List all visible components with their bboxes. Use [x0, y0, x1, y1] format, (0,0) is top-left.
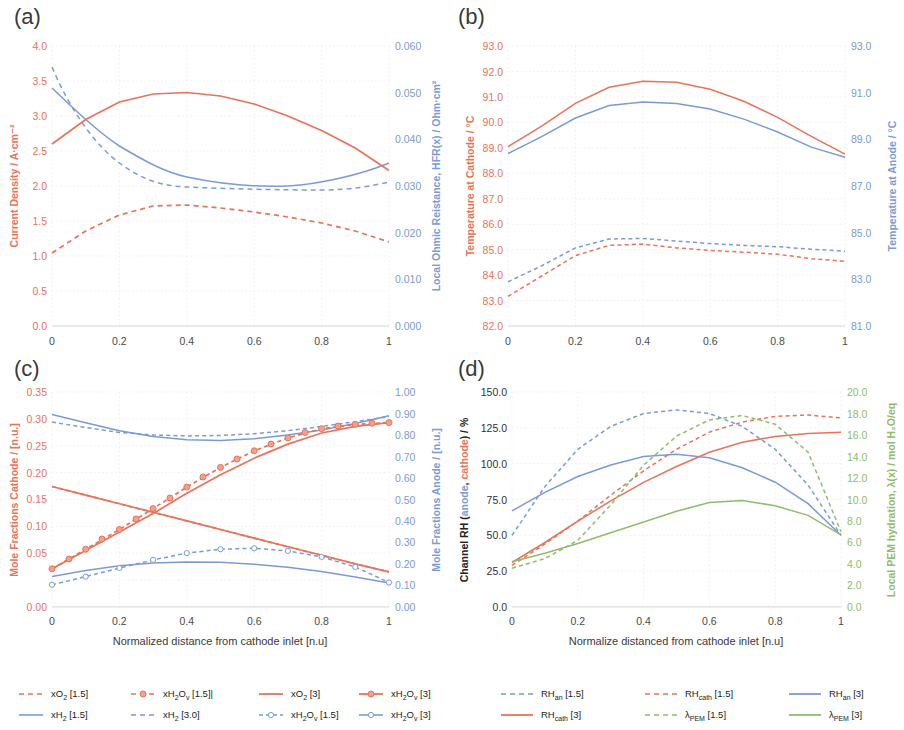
legend-item-xh2-3[interactable]: xH2 [3.0] [130, 709, 258, 722]
legend-item-xh2ov-1p5-cath[interactable]: xH2Ov [1.5]| [130, 688, 258, 701]
svg-text:2.5: 2.5 [32, 145, 47, 157]
svg-text:0.10: 0.10 [27, 520, 48, 532]
svg-text:0.2: 0.2 [112, 335, 127, 347]
panel-a-right-ticks: 0.060 0.050 0.040 0.030 0.020 0.010 0.00… [395, 40, 421, 332]
legend-label-rh-cath-1p5: RHcath [1.5] [678, 688, 733, 701]
legend-swatch-dashed-blue-marker [258, 710, 284, 720]
panel-a-chart: 4.0 3.5 3.0 2.5 2.0 1.5 1.0 0.5 0.0 0.06… [0, 0, 452, 360]
svg-text:0.4: 0.4 [635, 335, 650, 347]
legend-item-xo2-1p5[interactable]: xO2 [1.5] [18, 688, 130, 701]
svg-text:0.60: 0.60 [395, 472, 416, 484]
svg-text:125.0: 125.0 [481, 422, 507, 434]
legend-label-lambda-pem-1p5: λPEM [1.5] [678, 709, 726, 722]
legend-item-lambda-pem-1p5[interactable]: λPEM [1.5] [644, 709, 788, 722]
svg-text:0.30: 0.30 [27, 413, 48, 425]
svg-text:0.6: 0.6 [247, 335, 262, 347]
legend-right-row2: RHcath [3] λPEM [1.5] λPEM [3] [500, 709, 900, 722]
panel-d-ylabel-part3: cathode [458, 439, 470, 479]
markers-xh2ov-anode [49, 546, 391, 588]
panel-b-letter: (b) [458, 4, 485, 30]
curve-tcathode-3 [508, 81, 845, 154]
svg-text:89.0: 89.0 [851, 133, 872, 145]
panel-d-ylabel-part0: Channel RH ( [458, 516, 470, 582]
svg-text:100.0: 100.0 [481, 458, 507, 470]
svg-text:150.0: 150.0 [481, 386, 507, 398]
legend-swatch-d-dashed-blue [500, 689, 534, 699]
svg-text:6.0: 6.0 [847, 536, 862, 548]
legend-label-xh2ov-1p5-cath: xH2Ov [1.5]| [156, 688, 213, 701]
panel-d-right-ticks: 20.0 18.0 16.0 14.0 12.0 10.0 8.0 6.0 4.… [847, 386, 868, 613]
svg-text:85.0: 85.0 [483, 244, 504, 256]
svg-text:12.0: 12.0 [847, 472, 868, 484]
svg-text:0: 0 [509, 615, 515, 627]
curve-lambda-pem-1p5 [512, 416, 841, 569]
svg-text:82.0: 82.0 [483, 320, 504, 332]
legend-item-lambda-pem-3[interactable]: λPEM [3] [788, 709, 862, 722]
panel-c: (c) [0, 352, 452, 682]
svg-text:0.6: 0.6 [702, 615, 717, 627]
svg-text:87.0: 87.0 [851, 180, 872, 192]
panel-a-x-ticks: 0 0.2 0.4 0.6 0.8 1 [49, 335, 392, 347]
svg-text:0.000: 0.000 [395, 320, 421, 332]
svg-text:0.20: 0.20 [395, 558, 416, 570]
legend-item-rh-cath-3[interactable]: RHcath [3] [500, 709, 644, 722]
svg-text:0: 0 [505, 335, 511, 347]
panel-b-chart: 93.0 92.0 91.0 90.0 89.0 88.0 87.0 86.0 … [452, 0, 904, 360]
panel-d-letter: (d) [458, 356, 485, 382]
legend-swatch-d-solid-blue [788, 689, 822, 699]
legend-right-row1: RHan [1.5] RHcath [1.5] RHan [3] [500, 688, 900, 701]
svg-text:75.0: 75.0 [487, 494, 508, 506]
svg-text:0.4: 0.4 [636, 615, 651, 627]
svg-text:0: 0 [49, 335, 55, 347]
svg-text:0.020: 0.020 [395, 227, 421, 239]
legend-item-xh2ov-1p5-an[interactable]: xH2Ov [1.5] [258, 709, 358, 722]
legend-item-rh-cath-1p5[interactable]: RHcath [1.5] [644, 688, 788, 701]
svg-text:0.2: 0.2 [568, 335, 583, 347]
svg-text:4.0: 4.0 [32, 40, 47, 52]
svg-text:14.0: 14.0 [847, 451, 868, 463]
legend-item-rh-an-3[interactable]: RHan [3] [788, 688, 864, 701]
svg-text:86.0: 86.0 [483, 218, 504, 230]
legend-item-xh2ov-3-an[interactable]: xH2Ov [3] [358, 709, 431, 722]
legend-label-rh-an-1p5: RHan [1.5] [534, 688, 584, 701]
svg-text:0.8: 0.8 [314, 615, 329, 627]
panel-b: (b) [452, 0, 904, 360]
legend-swatch-solid-red-marker [358, 689, 384, 699]
svg-text:0.10: 0.10 [395, 579, 416, 591]
legend-right: RHan [1.5] RHcath [1.5] RHan [3] RHcath … [500, 688, 900, 722]
legend-label-lambda-pem-3: λPEM [3] [822, 709, 862, 722]
legend-item-xo2-3[interactable]: xO2 [3] [258, 688, 358, 701]
curve-tanode-3 [508, 102, 845, 157]
svg-text:0.6: 0.6 [703, 335, 718, 347]
panel-d-grid [512, 392, 841, 607]
svg-text:0.4: 0.4 [179, 615, 194, 627]
svg-text:3.0: 3.0 [32, 110, 47, 122]
svg-text:85.0: 85.0 [851, 227, 872, 239]
panel-c-xlabel: Normalized distance from cathode inlet [… [113, 635, 328, 647]
legend-item-rh-an-1p5[interactable]: RHan [1.5] [500, 688, 644, 701]
svg-text:0.030: 0.030 [395, 180, 421, 192]
svg-text:0.20: 0.20 [27, 467, 48, 479]
panel-b-left-ticks: 93.0 92.0 91.0 90.0 89.0 88.0 87.0 86.0 … [483, 40, 504, 332]
svg-text:0.30: 0.30 [395, 536, 416, 548]
svg-text:0.2: 0.2 [570, 615, 585, 627]
legend-label-xh2ov-3-cath: xH2Ov [3] [384, 688, 431, 701]
svg-text:83.0: 83.0 [483, 295, 504, 307]
panel-a-left-ticks: 4.0 3.5 3.0 2.5 2.0 1.5 1.0 0.5 0.0 [32, 40, 47, 332]
svg-text:1.5: 1.5 [32, 215, 47, 227]
curve-current-density-dashed [52, 205, 389, 253]
svg-text:0.4: 0.4 [179, 335, 194, 347]
svg-text:87.0: 87.0 [483, 193, 504, 205]
legend-item-xh2-1p5[interactable]: xH2 [1.5] [18, 709, 130, 722]
panel-d-left-ticks: 150.0 125.0 100.0 75.0 50.0 25.0 0.0 [481, 386, 507, 613]
svg-text:8.0: 8.0 [847, 515, 862, 527]
legend-swatch-d-dashed-green [644, 710, 678, 720]
svg-text:83.0: 83.0 [851, 273, 872, 285]
legend-swatch-dashed-red-marker [130, 689, 156, 699]
svg-text:0.5: 0.5 [32, 285, 47, 297]
panel-c-letter: (c) [14, 356, 40, 382]
curve-hfr-3 [52, 88, 389, 186]
svg-text:0.40: 0.40 [395, 515, 416, 527]
legend-item-xh2ov-3-cath[interactable]: xH2Ov [3] [358, 688, 431, 701]
svg-text:90.0: 90.0 [483, 116, 504, 128]
